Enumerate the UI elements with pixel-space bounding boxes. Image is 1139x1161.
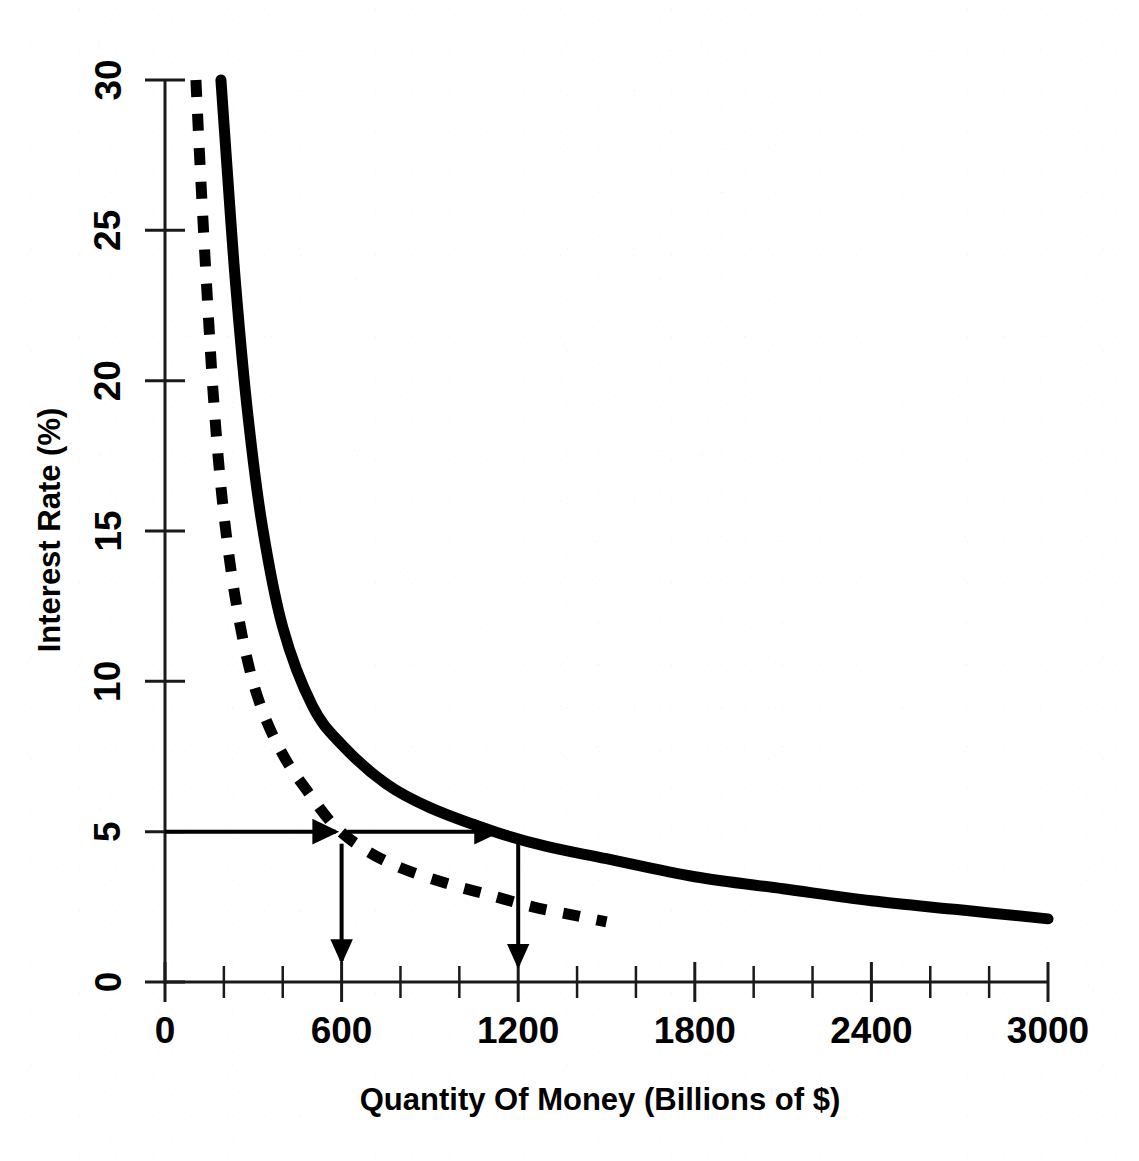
y-tick-label: 30	[88, 59, 129, 100]
y-tick-label: 25	[88, 210, 129, 251]
y-axis-title: Interest Rate (%)	[32, 408, 67, 653]
x-axis: 06001200180024003000 Quantity Of Money (…	[155, 962, 1089, 1117]
x-tick-label: 600	[311, 1010, 373, 1051]
y-tick-label: 15	[88, 510, 129, 551]
y-tick-label: 0	[88, 972, 129, 993]
x-tick-label: 0	[155, 1010, 176, 1051]
x-tick-label: 2400	[830, 1010, 912, 1051]
annotation-arrows	[165, 832, 518, 966]
plot-area	[196, 80, 1048, 922]
x-axis-title: Quantity Of Money (Billions of $)	[360, 1082, 841, 1117]
money-demand-curve-solid	[221, 80, 1048, 919]
x-tick-label: 3000	[1007, 1010, 1089, 1051]
money-demand-chart: 051015202530 Interest Rate (%) 060012001…	[0, 0, 1139, 1161]
y-axis: 051015202530 Interest Rate (%)	[32, 59, 185, 992]
x-axis-tick-labels: 06001200180024003000	[155, 1010, 1089, 1051]
y-tick-label: 5	[88, 821, 129, 842]
x-tick-label: 1800	[654, 1010, 736, 1051]
y-tick-label: 20	[88, 360, 129, 401]
y-tick-label: 10	[88, 661, 129, 702]
y-axis-tick-labels: 051015202530	[88, 59, 129, 992]
x-tick-label: 1200	[477, 1010, 559, 1051]
